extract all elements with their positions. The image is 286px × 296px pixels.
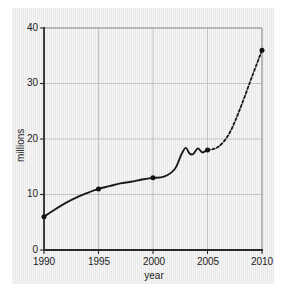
data-point-marker	[205, 148, 210, 153]
y-tick-label-30: 30	[18, 77, 38, 88]
y-tick-label-0: 0	[18, 244, 38, 255]
y-tick-label-40: 40	[18, 22, 38, 33]
y-axis-label: millions	[15, 129, 26, 162]
x-tick-label-1990: 1990	[24, 256, 64, 267]
x-tick-label-2005: 2005	[188, 256, 228, 267]
x-tick-label-2010: 2010	[242, 256, 282, 267]
y-tick-label-10: 10	[18, 188, 38, 199]
x-tick-label-2000: 2000	[134, 256, 174, 267]
x-axis-label: year	[124, 270, 184, 281]
x-tick-label-1995: 1995	[79, 256, 119, 267]
data-point-marker	[260, 48, 265, 53]
series-line-observed	[44, 148, 208, 217]
chart-figure: 40 30 20 10 0 1990 1995 2000 2005 2010 m…	[0, 0, 286, 296]
data-point-marker	[42, 214, 47, 219]
data-point-marker	[151, 175, 156, 180]
series-line-projected	[208, 50, 263, 150]
chart-plot-svg	[0, 0, 286, 296]
data-point-marker	[96, 186, 101, 191]
